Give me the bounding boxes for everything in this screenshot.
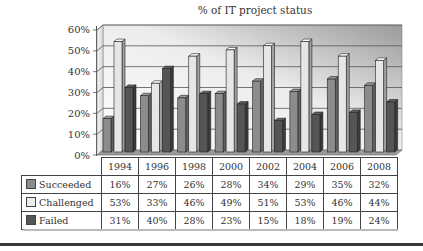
table-cell: 46%: [176, 194, 213, 212]
table-cell: 18%: [287, 212, 324, 230]
year-header: 2002: [250, 158, 287, 176]
bar-challenged-1994: [114, 39, 125, 152]
series-label: Challenged: [39, 197, 94, 208]
table-row-failed: Failed 31% 40% 28% 23% 15% 18% 19% 24%: [22, 212, 398, 230]
table-cell: 27%: [139, 176, 176, 194]
table-cell: 19%: [324, 212, 361, 230]
bar-challenged-2002: [264, 43, 275, 152]
table-cell: 53%: [102, 194, 139, 212]
table-cell: 32%: [361, 176, 398, 194]
table-shadow: [23, 229, 398, 231]
table-cell: 28%: [176, 212, 213, 230]
bar-failed-2004: [312, 112, 323, 152]
bar-succeeded-1994: [103, 116, 114, 152]
table-header-row: 1994 1996 1998 2000 2002 2004 2006 2008: [22, 158, 398, 176]
table-cell: 16%: [102, 176, 139, 194]
table-cell: 40%: [139, 212, 176, 230]
table-cell: 33%: [139, 194, 176, 212]
table-cell: 23%: [213, 212, 250, 230]
table-cell: 51%: [250, 194, 287, 212]
bar-challenged-1998: [189, 54, 200, 152]
series-label: Succeeded: [39, 179, 91, 190]
table-cell: 31%: [102, 212, 139, 230]
year-header: 2006: [324, 158, 361, 176]
table-cell: 35%: [324, 176, 361, 194]
failed-swatch-icon: [26, 215, 36, 225]
table-cell: 53%: [287, 194, 324, 212]
bar-failed-2006: [349, 110, 360, 152]
legend-key-failed: Failed: [22, 212, 102, 230]
bar-failed-2000: [237, 102, 248, 152]
year-header: 1998: [176, 158, 213, 176]
bar-failed-1994: [125, 85, 136, 152]
bottom-divider: [0, 243, 423, 246]
table-corner: [22, 158, 102, 176]
data-table: 1994 1996 1998 2000 2002 2004 2006 2008 …: [21, 157, 398, 230]
bar-challenged-2008: [376, 58, 387, 152]
bar-succeeded-2006: [327, 77, 338, 152]
series-label: Failed: [39, 215, 68, 226]
bar-challenged-2004: [301, 39, 312, 152]
challenged-swatch-icon: [26, 197, 36, 207]
chart-plot-area: [0, 0, 423, 170]
bar-challenged-2000: [226, 47, 237, 152]
bar-failed-1996: [162, 66, 173, 152]
bar-succeeded-1998: [178, 95, 189, 152]
year-header: 2000: [213, 158, 250, 176]
legend-key-succeeded: Succeeded: [22, 176, 102, 194]
bar-succeeded-2000: [215, 91, 226, 152]
year-header: 2008: [361, 158, 398, 176]
table-cell: 28%: [213, 176, 250, 194]
bar-failed-1998: [200, 91, 211, 152]
bar-failed-2008: [387, 100, 398, 153]
table-row-succeeded: Succeeded 16% 27% 26% 28% 34% 29% 35% 32…: [22, 176, 398, 194]
bar-succeeded-2004: [290, 89, 301, 152]
legend-key-challenged: Challenged: [22, 194, 102, 212]
table-cell: 29%: [287, 176, 324, 194]
table-cell: 24%: [361, 212, 398, 230]
bar-succeeded-2008: [365, 83, 376, 152]
bar-failed-2002: [275, 118, 286, 152]
table-cell: 15%: [250, 212, 287, 230]
bar-succeeded-2002: [253, 79, 264, 152]
table-cell: 34%: [250, 176, 287, 194]
bar-challenged-1996: [151, 81, 162, 152]
table-cell: 49%: [213, 194, 250, 212]
table-cell: 26%: [176, 176, 213, 194]
bar-challenged-2006: [338, 54, 349, 152]
bar-succeeded-1996: [140, 93, 151, 152]
table-row-challenged: Challenged 53% 33% 46% 49% 51% 53% 46% 4…: [22, 194, 398, 212]
table-cell: 46%: [324, 194, 361, 212]
succeeded-swatch-icon: [26, 179, 36, 189]
table-cell: 44%: [361, 194, 398, 212]
year-header: 1996: [139, 158, 176, 176]
year-header: 2004: [287, 158, 324, 176]
year-header: 1994: [102, 158, 139, 176]
